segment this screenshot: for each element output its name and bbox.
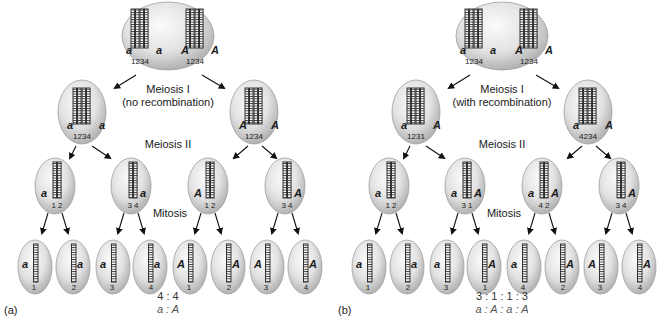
allele-label: a <box>99 119 105 131</box>
meiosis1-cell: aa1234 <box>58 80 106 144</box>
allele-label: a <box>154 258 160 270</box>
arrow-icon <box>549 213 555 233</box>
chromatid <box>78 88 82 124</box>
mitosis-label: Mitosis <box>487 207 522 219</box>
chromatid <box>131 9 135 48</box>
allele-label: A <box>193 187 202 199</box>
chromatid <box>149 244 154 282</box>
arrow-icon <box>195 213 201 233</box>
arrow-icon <box>596 146 610 158</box>
chromatid <box>34 244 39 282</box>
arrow-icon <box>118 213 124 233</box>
allele-label: A <box>514 44 523 56</box>
chromatid <box>523 244 528 282</box>
chromatid <box>579 88 583 124</box>
spore-number: 4 <box>304 283 309 292</box>
spore-number: 2 <box>227 283 232 292</box>
chromatid <box>206 162 210 198</box>
chromatid-numbers: 1 2 <box>204 201 216 210</box>
meiosis2-cell: a1 2 <box>369 158 409 214</box>
spore-number: 3 <box>598 283 603 292</box>
spore-number: 1 <box>32 283 37 292</box>
chromatid <box>617 162 621 198</box>
arrow-icon <box>529 213 535 233</box>
arrow-icon <box>234 146 248 158</box>
allele-label: a <box>511 258 517 270</box>
chromatid <box>588 88 592 124</box>
chromatid <box>392 162 396 198</box>
allele-label: a <box>528 187 534 199</box>
segregation-ratio: 3 : 1 : 1 : 3 <box>476 290 528 302</box>
spore-number: 3 <box>110 283 115 292</box>
arrow-icon <box>292 213 298 233</box>
arrow-icon <box>449 75 470 88</box>
chromatid <box>250 88 254 124</box>
chromatid-numbers: 3 4 <box>127 201 139 210</box>
chromatid <box>87 88 91 124</box>
spore-cell: A4 <box>622 240 656 294</box>
panel-a: aa1234AA1234Meiosis I(no recombination)a… <box>4 2 322 316</box>
chromatid <box>211 162 215 198</box>
spore-cell: A1 <box>173 240 207 294</box>
allele-label: A <box>627 187 636 199</box>
allele-label: a <box>140 187 146 199</box>
spore-cell: A1 <box>467 240 501 294</box>
spore-cell: A2 <box>211 240 245 294</box>
arrow-icon <box>396 213 402 233</box>
allele-label: A <box>293 187 302 199</box>
chromatid <box>407 88 411 124</box>
allele-label: a <box>156 44 162 56</box>
chromatid <box>600 244 605 282</box>
chromatid <box>195 9 199 48</box>
chromatid <box>584 88 588 124</box>
chromatid <box>412 88 416 124</box>
chromatid <box>479 9 483 48</box>
allele-label: A <box>487 258 496 270</box>
allele-label: A <box>604 119 613 131</box>
allele-label: a <box>77 258 83 270</box>
meiosis2-label: Meiosis II <box>479 138 525 150</box>
allele-label: A <box>473 187 482 199</box>
meiosis1-subtitle: (with recombination) <box>452 96 551 108</box>
arrow-icon <box>626 213 632 233</box>
chromatid-numbers: 1234 <box>245 132 263 141</box>
meiosis2-cell: A3 4 <box>265 158 305 214</box>
spore-cell: A4 <box>288 240 322 294</box>
chromatid <box>189 244 194 282</box>
chromatid <box>622 162 626 198</box>
arrow-icon <box>215 213 221 233</box>
chromatid <box>129 162 133 198</box>
allele-label: a <box>451 187 457 199</box>
chromatid <box>304 244 309 282</box>
allele-label: a <box>126 44 132 56</box>
spore-cell: a1 <box>352 240 386 294</box>
tetrad-diagram: aa1234AA1234Meiosis I(no recombination)a… <box>0 0 664 330</box>
panel-label: (b) <box>338 304 351 316</box>
chromatid <box>525 9 529 48</box>
chromatid <box>72 244 77 282</box>
panel-b: aa1234AA1234Meiosis I(with recombination… <box>338 2 656 316</box>
chromatid <box>283 162 287 198</box>
arrow-icon <box>62 213 68 233</box>
chromatid <box>200 9 204 48</box>
chromatid <box>134 162 138 198</box>
allele-label: a <box>401 119 407 131</box>
chromatid <box>463 162 467 198</box>
spore-number: 3 <box>264 283 269 292</box>
chromatid <box>468 162 472 198</box>
chromatid-numbers: 1234 <box>520 57 538 66</box>
chromatid-numbers: 3 4 <box>281 201 293 210</box>
chromatid <box>520 9 524 48</box>
spore-cell: a3 <box>96 240 130 294</box>
meiosis1-cell: aA4234 <box>564 80 613 144</box>
arrow-icon <box>452 213 458 233</box>
meiosis2-cell: A1 2 <box>188 158 228 214</box>
spore-cell: a2 <box>390 240 424 294</box>
allele-label: a <box>573 119 579 131</box>
allele-label: A <box>565 258 574 270</box>
spore-cell: a4 <box>507 240 541 294</box>
chromatid <box>474 9 478 48</box>
allele-label: A <box>176 258 185 270</box>
allele-label: A <box>238 119 247 131</box>
arrow-icon <box>426 146 444 158</box>
